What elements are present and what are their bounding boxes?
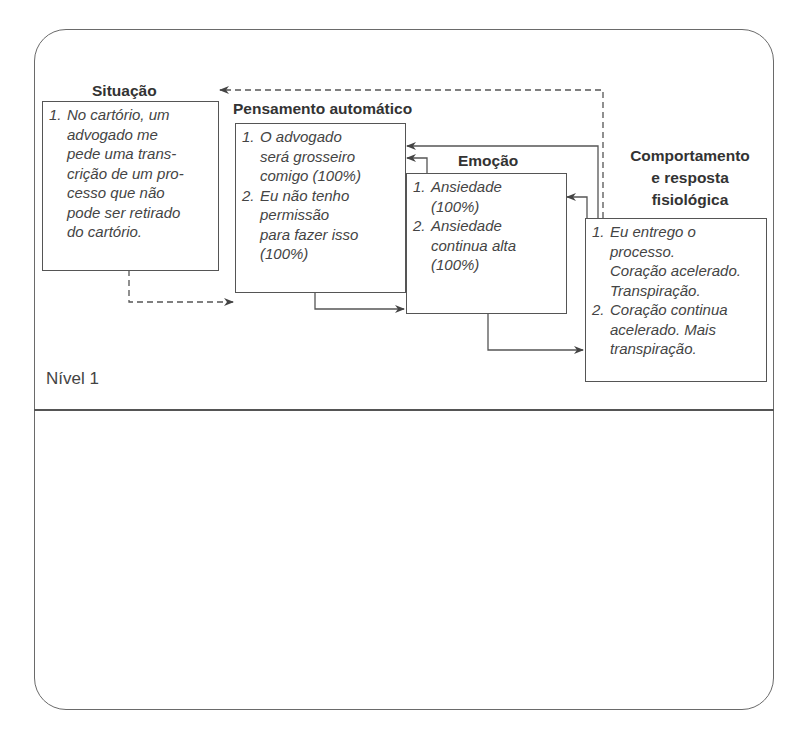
emocao-title: Emoção xyxy=(458,150,518,172)
emocao-item: 2. Ansiedade continua alta (100%) xyxy=(413,216,562,275)
comportamento-title-line: fisiológica xyxy=(610,189,770,211)
item-number: 2. xyxy=(242,186,260,264)
item-number: 1. xyxy=(49,105,67,242)
item-number: 1. xyxy=(592,222,610,300)
comportamento-item: 1. Eu entrego o processo. Coração aceler… xyxy=(592,222,762,300)
comportamento-box: 1. Eu entrego o processo. Coração aceler… xyxy=(585,218,767,382)
pensamento-title: Pensamento automático xyxy=(233,98,412,120)
item-text: O advogado será grosseiro comigo (100%) xyxy=(260,127,361,186)
level-label: Nível 1 xyxy=(46,369,99,389)
comportamento-title-line: e resposta xyxy=(610,167,770,189)
item-number: 2. xyxy=(592,300,610,359)
pensamento-box: 1. O advogado será grosseiro comigo (100… xyxy=(235,123,406,293)
item-number: 1. xyxy=(413,177,431,216)
comportamento-item: 2. Coração continua acelerado. Mais tran… xyxy=(592,300,762,359)
pensamento-item: 1. O advogado será grosseiro comigo (100… xyxy=(242,127,401,186)
situacao-item: 1. No cartório, um advogado me pede uma … xyxy=(49,105,214,242)
item-number: 1. xyxy=(242,127,260,186)
item-text: No cartório, um advogado me pede uma tra… xyxy=(67,105,184,242)
emocao-box: 1. Ansiedade (100%) 2. Ansiedade continu… xyxy=(406,173,567,314)
item-number: 2. xyxy=(413,216,431,275)
item-text: Eu não tenho permissão para fazer isso (… xyxy=(260,186,358,264)
item-text: Ansiedade continua alta (100%) xyxy=(431,216,516,275)
pensamento-item: 2. Eu não tenho permissão para fazer iss… xyxy=(242,186,401,264)
comportamento-title: Comportamento e resposta fisiológica xyxy=(610,145,770,211)
item-text: Ansiedade (100%) xyxy=(431,177,502,216)
situacao-box: 1. No cartório, um advogado me pede uma … xyxy=(42,101,219,271)
situacao-title: Situação xyxy=(92,80,157,102)
emocao-item: 1. Ansiedade (100%) xyxy=(413,177,562,216)
item-text: Coração continua acelerado. Mais transpi… xyxy=(610,300,728,359)
comportamento-title-line: Comportamento xyxy=(610,145,770,167)
item-text: Eu entrego o processo. Coração acelerado… xyxy=(610,222,741,300)
